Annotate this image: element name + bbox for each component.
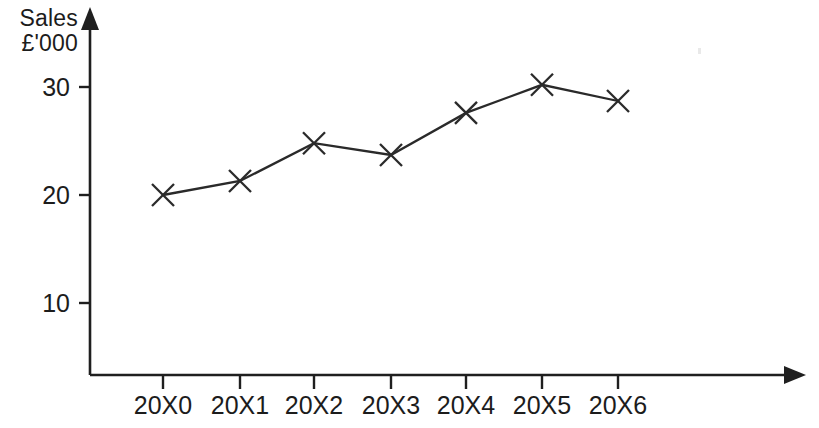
series-markers — [152, 74, 629, 206]
y-tick-label-20: 20 — [42, 181, 70, 209]
x-tick-label-20X4: 20X4 — [437, 391, 495, 419]
x-tick-label-20X5: 20X5 — [513, 391, 571, 419]
x-tick-label-20X3: 20X3 — [362, 391, 420, 419]
series-line-sales — [163, 85, 618, 195]
x-tick-label-20X6: 20X6 — [589, 391, 647, 419]
data-point-20X0 — [152, 184, 174, 206]
data-point-20X5 — [531, 74, 553, 96]
right-arrow-icon — [784, 366, 806, 384]
scan-artifact-speck — [698, 48, 701, 54]
up-arrow-icon — [81, 7, 99, 30]
x-axis-ticks — [163, 375, 618, 389]
data-point-20X6 — [607, 90, 629, 112]
chart-canvas: Sales £'000 10 20 30 20X0 20X1 20X2 20X3… — [0, 0, 819, 428]
y-axis-ticks — [79, 87, 90, 303]
data-point-20X4 — [455, 102, 477, 124]
x-tick-label-20X1: 20X1 — [211, 391, 269, 419]
data-point-20X2 — [303, 132, 325, 154]
data-point-20X3 — [380, 144, 402, 166]
y-tick-label-10: 10 — [42, 289, 70, 317]
line-chart: Sales £'000 10 20 30 20X0 20X1 20X2 20X3… — [0, 0, 819, 428]
y-axis-title-line1: Sales — [19, 5, 78, 31]
x-tick-label-20X2: 20X2 — [285, 391, 343, 419]
data-point-20X1 — [229, 170, 251, 192]
y-tick-label-30: 30 — [42, 73, 70, 101]
y-axis-title-line2: £'000 — [21, 30, 78, 56]
x-tick-label-20X0: 20X0 — [134, 391, 192, 419]
